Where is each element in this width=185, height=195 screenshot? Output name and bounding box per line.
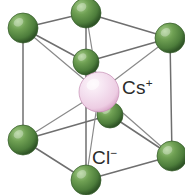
cscl-unit-cell-figure: Cs+ Cl− — [0, 0, 185, 195]
chloride-ion-sphere — [157, 141, 185, 171]
chloride-ion-sphere — [8, 125, 38, 155]
chloride-ion-sphere — [155, 23, 185, 53]
sphere-body — [79, 72, 119, 112]
sphere-body — [8, 125, 38, 155]
chloride-charge: − — [111, 146, 118, 159]
chloride-ion-sphere — [71, 0, 101, 28]
lattice-line — [170, 38, 172, 156]
cesium-charge: + — [146, 76, 153, 89]
sphere-body — [71, 0, 101, 28]
cesium-ion-label: Cs+ — [122, 78, 153, 97]
chloride-ion-sphere — [8, 13, 38, 43]
chloride-ion-label: Cl− — [92, 148, 118, 167]
chloride-ion-sphere — [73, 49, 99, 75]
sphere-body — [155, 23, 185, 53]
cesium-symbol: Cs — [122, 77, 146, 98]
chloride-symbol: Cl — [92, 147, 111, 168]
chloride-ion-sphere — [71, 165, 101, 195]
sphere-body — [71, 165, 101, 195]
sphere-body — [73, 49, 99, 75]
sphere-body — [8, 13, 38, 43]
cesium-ion-sphere — [79, 72, 119, 112]
sphere-body — [157, 141, 185, 171]
